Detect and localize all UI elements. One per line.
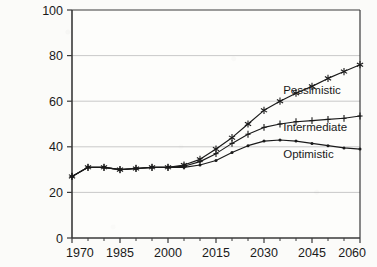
marker-optimistic-2035: [279, 138, 282, 141]
x-tick-label-2045: 2045: [298, 246, 326, 260]
marker-optimistic-1980: [103, 166, 106, 169]
x-tick-label-2015: 2015: [202, 246, 230, 260]
y-tick-label-100: 100: [42, 4, 63, 18]
dependency-ratio-projection-chart: 1970198520002015203020452060 02040608010…: [0, 0, 377, 267]
marker-optimistic-2005: [183, 166, 186, 169]
marker-optimistic-2025: [247, 144, 250, 147]
y-tick-label-0: 0: [56, 232, 63, 246]
series-label-intermediate: Intermediate: [283, 121, 347, 133]
x-tick-label-2000: 2000: [154, 246, 182, 260]
y-tick-label-20: 20: [49, 186, 63, 200]
chart-canvas: 1970198520002015203020452060 02040608010…: [0, 0, 377, 267]
marker-optimistic-2060: [359, 148, 362, 151]
marker-optimistic-1995: [151, 166, 154, 169]
marker-optimistic-2050: [327, 144, 330, 147]
x-tick-label-2030: 2030: [250, 246, 278, 260]
marker-optimistic-1970: [71, 175, 74, 178]
x-tick-label-1985: 1985: [106, 246, 134, 260]
marker-optimistic-1990: [135, 167, 138, 170]
y-tick-label-80: 80: [49, 49, 63, 63]
x-axis-tick-labels: 1970198520002015203020452060: [66, 246, 366, 260]
marker-optimistic-2020: [231, 151, 234, 154]
marker-optimistic-2000: [167, 166, 170, 169]
y-tick-label-60: 60: [49, 95, 63, 109]
marker-optimistic-2015: [215, 159, 218, 162]
series-label-pessimistic: Pessimistic: [283, 84, 341, 96]
marker-optimistic-2030: [263, 140, 266, 143]
marker-optimistic-1975: [87, 166, 90, 169]
marker-optimistic-2045: [311, 142, 314, 145]
x-tick-label-2060: 2060: [338, 246, 366, 260]
marker-optimistic-2055: [343, 146, 346, 149]
marker-optimistic-1985: [119, 168, 122, 171]
series-label-optimistic: Optimistic: [283, 148, 334, 160]
marker-optimistic-2040: [295, 140, 298, 143]
y-axis-tick-labels: 020406080100: [42, 4, 63, 246]
x-tick-label-1970: 1970: [66, 246, 94, 260]
marker-optimistic-2010: [199, 164, 202, 167]
y-tick-label-40: 40: [49, 140, 63, 154]
